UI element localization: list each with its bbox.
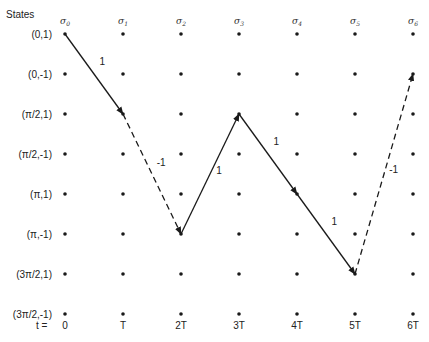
time-prefix: t = <box>36 320 48 331</box>
state-label: (π/2,-1) <box>18 149 52 160</box>
grid-node <box>63 232 67 236</box>
edge-weight-label: 1 <box>216 165 222 176</box>
grid-node <box>353 112 357 116</box>
grid-node <box>353 192 357 196</box>
grid-node <box>121 152 125 156</box>
grid-dots <box>63 32 415 316</box>
grid-node <box>353 32 357 36</box>
grid-node <box>63 192 67 196</box>
state-label: (0,-1) <box>28 69 52 80</box>
edge-weight-label: -1 <box>389 164 398 175</box>
time-label: 6T <box>407 320 419 331</box>
grid-node <box>411 32 415 36</box>
grid-node <box>179 32 183 36</box>
grid-node <box>179 72 183 76</box>
stage-label-sigma-5: σ5 <box>350 16 360 27</box>
grid-node <box>295 152 299 156</box>
trellis-diagram: States (0,1)(0,-1)(π/2,1)(π/2,-1)(π,1)(π… <box>0 0 429 342</box>
grid-node <box>179 192 183 196</box>
state-label: (π/2,1) <box>22 109 52 120</box>
edge-weight-label: 1 <box>274 136 280 147</box>
grid-node <box>353 72 357 76</box>
grid-node <box>411 312 415 316</box>
state-label: (3π/2,-1) <box>13 309 52 320</box>
stage-label-sigma-6: σ6 <box>408 16 418 27</box>
grid-node <box>411 152 415 156</box>
time-label: 5T <box>349 320 361 331</box>
grid-node <box>295 72 299 76</box>
transition-edge-solid <box>297 194 355 274</box>
grid-node <box>295 312 299 316</box>
grid-node <box>121 32 125 36</box>
transition-edge-dashed <box>355 74 413 274</box>
grid-node <box>237 72 241 76</box>
stage-label-sigma-2: σ2 <box>176 16 186 27</box>
grid-node <box>63 72 67 76</box>
stage-label-sigma-1: σ1 <box>118 16 128 27</box>
grid-node <box>121 192 125 196</box>
grid-node <box>121 232 125 236</box>
grid-node <box>63 152 67 156</box>
grid-node <box>179 272 183 276</box>
stage-label-sigma-4: σ4 <box>292 16 302 27</box>
time-label: T <box>120 320 126 331</box>
grid-node <box>411 232 415 236</box>
grid-node <box>295 112 299 116</box>
grid-node <box>237 192 241 196</box>
grid-node <box>411 192 415 196</box>
stage-sigma-labels: σ0σ1σ2σ3σ4σ5σ6 <box>60 16 418 27</box>
stage-label-sigma-0: σ0 <box>60 16 70 27</box>
grid-node <box>121 72 125 76</box>
transition-edge-solid <box>181 114 239 234</box>
edge-weight-label: 1 <box>100 56 106 67</box>
grid-node <box>121 312 125 316</box>
grid-node <box>353 312 357 316</box>
grid-node <box>63 112 67 116</box>
grid-node <box>353 152 357 156</box>
grid-node <box>179 312 183 316</box>
grid-node <box>121 272 125 276</box>
grid-node <box>179 152 183 156</box>
grid-node <box>237 152 241 156</box>
edge-weight-label: -1 <box>157 157 166 168</box>
time-label: 2T <box>175 320 187 331</box>
axis-title-states: States <box>6 9 34 20</box>
state-label: (0,1) <box>31 29 52 40</box>
time-axis-labels: t = 0T2T3T4T5T6T <box>36 320 419 331</box>
stage-label-sigma-3: σ3 <box>234 16 244 27</box>
state-labels: (0,1)(0,-1)(π/2,1)(π/2,-1)(π,1)(π,-1)(3π… <box>13 29 52 320</box>
grid-node <box>237 312 241 316</box>
grid-node <box>179 112 183 116</box>
edge-labels: 1-1111-1 <box>100 56 399 227</box>
transition-edge-solid <box>239 114 297 194</box>
grid-node <box>237 272 241 276</box>
time-label: 4T <box>291 320 303 331</box>
grid-node <box>411 272 415 276</box>
grid-node <box>353 232 357 236</box>
state-label: (3π/2,1) <box>16 269 52 280</box>
edge-weight-label: 1 <box>332 216 338 227</box>
grid-node <box>295 32 299 36</box>
grid-node <box>63 312 67 316</box>
time-label: 3T <box>233 320 245 331</box>
grid-node <box>237 232 241 236</box>
grid-node <box>63 272 67 276</box>
grid-node <box>295 272 299 276</box>
grid-node <box>295 232 299 236</box>
time-label: 0 <box>62 320 68 331</box>
transition-edge-dashed <box>123 114 181 234</box>
grid-node <box>411 112 415 116</box>
grid-node <box>237 32 241 36</box>
state-label: (π,1) <box>30 189 52 200</box>
state-label: (π,-1) <box>27 229 52 240</box>
transition-edge-solid <box>65 34 123 114</box>
